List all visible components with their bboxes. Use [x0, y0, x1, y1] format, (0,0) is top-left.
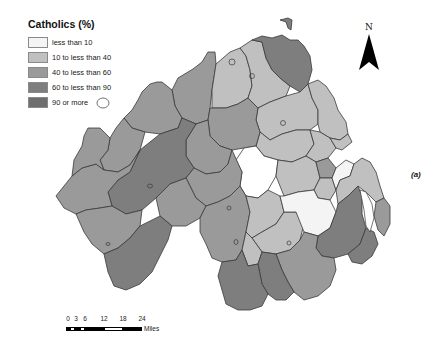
legend-label: less than 10: [52, 38, 92, 47]
legend-item: 90 or more: [28, 95, 111, 110]
legend-item: less than 10: [28, 35, 111, 50]
scale-ticks: 0 3 6 12 18 24: [66, 315, 156, 324]
scale-bar-graphic: Miles: [66, 325, 159, 332]
scale-tick: 0: [66, 315, 70, 322]
legend-label: 40 to less than 60: [52, 68, 111, 77]
legend-swatch: [28, 67, 48, 78]
legend-swatch: [28, 97, 48, 108]
scale-units: Miles: [144, 325, 159, 332]
legend-label: 10 to less than 40: [52, 53, 111, 62]
scale-segment: [123, 327, 142, 331]
scale-tick: 24: [138, 315, 145, 322]
north-arrow-icon: [357, 32, 381, 72]
north-arrow: N: [357, 22, 381, 76]
legend-item: 40 to less than 60: [28, 65, 111, 80]
scale-tick: 18: [119, 315, 126, 322]
legend: Catholics (%) less than 10 10 to less th…: [28, 18, 111, 110]
legend-item: 10 to less than 40: [28, 50, 111, 65]
panel-label: (a): [411, 170, 421, 179]
scale-tick: 3: [74, 315, 78, 322]
legend-title: Catholics (%): [28, 18, 111, 30]
legend-swatch: [28, 37, 48, 48]
north-label: N: [357, 22, 381, 32]
scale-segment: [85, 327, 104, 331]
legend-swatch: [28, 82, 48, 93]
legend-item: 60 to less than 90: [28, 80, 111, 95]
legend-label: 90 or more: [52, 98, 88, 107]
scale-tick: 12: [100, 315, 107, 322]
scale-tick: 6: [83, 315, 87, 322]
legend-swatch: [28, 52, 48, 63]
region-rathlin: [280, 18, 292, 30]
region-ards-peninsula: [374, 198, 390, 236]
scale-segment: [104, 327, 123, 331]
scale-bar: 0 3 6 12 18 24 Miles: [66, 315, 159, 332]
legend-label: 60 to less than 90: [52, 83, 111, 92]
